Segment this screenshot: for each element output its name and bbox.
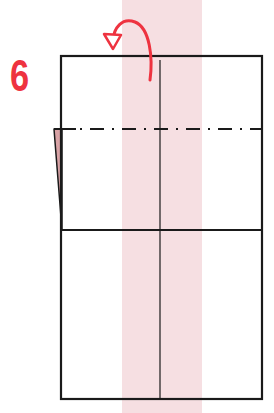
fold-diagram [0, 0, 274, 413]
paper-outline [61, 56, 262, 399]
fold-behind-arrow-icon [104, 21, 151, 80]
